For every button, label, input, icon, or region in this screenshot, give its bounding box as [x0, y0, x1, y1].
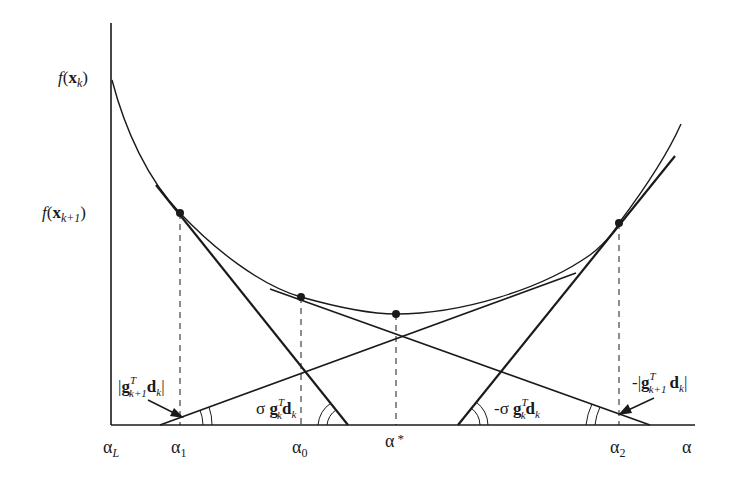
- angle-arc-left-1: [318, 403, 331, 425]
- sigma-descending-line: [270, 289, 650, 425]
- label-alpha: α: [682, 437, 692, 457]
- label-alpha-0: α0: [292, 437, 307, 460]
- label-f-xk: f(xk): [58, 68, 88, 90]
- point-alpha-2: [615, 219, 623, 227]
- angle-arc-sigma-2: [209, 407, 212, 425]
- angle-arc-desc-2: [595, 407, 600, 425]
- label-alpha-2: α2: [610, 437, 625, 460]
- label-alpha-L: αL: [103, 437, 119, 460]
- line-search-diagram: f(xk) f(xk+1) αL α1 α0 α* α2 α |gTk+1dk|…: [0, 0, 745, 485]
- angle-arc-right-2: [471, 408, 480, 425]
- point-alpha-0: [297, 293, 305, 301]
- label-alpha-1: α1: [171, 437, 186, 460]
- point-alpha-1: [176, 209, 184, 217]
- label-sigma-g: σ gTkdk: [256, 396, 297, 421]
- angle-arc-right-1: [476, 402, 488, 425]
- arrow-left-head: [170, 408, 184, 418]
- label-neg-abs-g-right: -|gTk+1dk|: [632, 370, 687, 395]
- point-alpha-star: [392, 310, 400, 318]
- angle-arc-left-2: [327, 410, 336, 425]
- angle-arc-sigma-1: [200, 410, 203, 425]
- label-neg-sigma-g: -σ gTkdk: [494, 396, 541, 421]
- label-abs-g-left: |gTk+1dk|: [118, 374, 165, 399]
- arrow-right-head: [618, 404, 632, 415]
- angle-arc-desc-1: [586, 404, 592, 425]
- label-alpha-star: α*: [385, 431, 404, 451]
- function-curve: [112, 80, 681, 314]
- label-f-xk1: f(xk+1): [42, 203, 86, 225]
- tangent-line-left-steep: [156, 185, 348, 425]
